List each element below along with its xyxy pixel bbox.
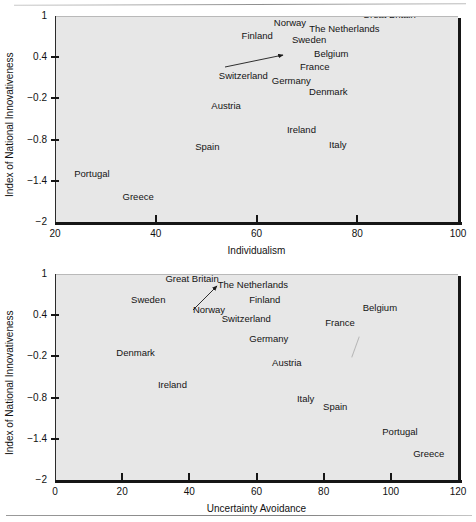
- data-point-label: Spain: [195, 142, 219, 152]
- y-tick-mark-bottom: [51, 438, 59, 440]
- plot-left-spine-top: [55, 16, 56, 222]
- x-tick-label-top: 40: [136, 229, 176, 239]
- x-tick-label-bottom: 120: [438, 487, 476, 497]
- x-axis-line-top: [55, 222, 462, 225]
- x-tick-mark-bottom: [390, 473, 392, 480]
- x-tick-mark-bottom: [121, 473, 123, 480]
- plot-top-spine-bottom: [55, 274, 458, 275]
- data-point-label: Portugal: [382, 427, 417, 437]
- y-tick-mark-bottom: [51, 355, 59, 357]
- y-tick-label-bottom: 1: [13, 269, 47, 279]
- x-axis-title-top: Individualism: [55, 246, 458, 256]
- data-point-label: France: [325, 318, 355, 328]
- data-point-label: Ireland: [287, 125, 316, 135]
- data-point-label: Spain: [323, 402, 347, 412]
- x-tick-mark-top: [356, 215, 358, 222]
- y-tick-mark-top: [51, 180, 59, 182]
- y-tick-label-top: −0.2: [13, 93, 47, 103]
- y-tick-label-top: 1: [13, 11, 47, 21]
- data-point-label: Greece: [123, 192, 154, 202]
- x-tick-label-bottom: 0: [35, 487, 75, 497]
- x-tick-label-bottom: 40: [169, 487, 209, 497]
- data-point-label: Sweden: [131, 295, 165, 305]
- y-tick-label-bottom: −0.8: [13, 393, 47, 403]
- x-tick-label-top: 100: [438, 229, 476, 239]
- data-point-label: Norway: [274, 18, 306, 28]
- x-axis-title-bottom: Uncertainty Avoidance: [55, 504, 458, 514]
- bottom-divider-rule: [6, 515, 472, 516]
- data-point-label: Denmark: [116, 348, 155, 358]
- x-tick-mark-bottom: [256, 473, 258, 480]
- y-tick-label-bottom: 0.4: [13, 310, 47, 320]
- y-tick-label-bottom: −2: [13, 475, 47, 485]
- y-tick-mark-top: [51, 97, 59, 99]
- data-point-label: Italy: [329, 140, 346, 150]
- y-tick-mark-bottom: [51, 397, 59, 399]
- data-point-label: Greece: [413, 449, 444, 459]
- y-tick-mark-bottom: [51, 314, 59, 316]
- plot-left-spine-bottom: [55, 274, 56, 480]
- plot-area-top: Great BritainNorwayThe NetherlandsFinlan…: [55, 16, 458, 222]
- y-tick-label-top: 0.4: [13, 52, 47, 62]
- annotation-arrow-top: [225, 45, 345, 105]
- y-tick-label-bottom: −0.2: [13, 351, 47, 361]
- plot-right-spine-top: [458, 18, 461, 225]
- y-tick-label-top: −2: [13, 217, 47, 227]
- x-axis-line-bottom: [55, 480, 462, 483]
- scatter-chart-individualism: Great BritainNorwayThe NetherlandsFinlan…: [0, 6, 476, 254]
- x-tick-mark-bottom: [188, 473, 190, 480]
- y-tick-mark-top: [51, 56, 59, 58]
- data-point-label: Finland: [242, 31, 273, 41]
- x-tick-label-bottom: 20: [102, 487, 142, 497]
- x-tick-label-bottom: 100: [371, 487, 411, 497]
- plot-area-bottom: Great BritainThe NetherlandsNorwayFinlan…: [55, 274, 458, 480]
- annotation-arrow-bottom: [183, 280, 303, 340]
- x-tick-mark-top: [256, 215, 258, 222]
- scan-artifact-mark: [351, 336, 359, 357]
- x-tick-label-top: 60: [237, 229, 277, 239]
- plot-right-spine-bottom: [458, 276, 461, 483]
- x-tick-label-top: 20: [35, 229, 75, 239]
- x-tick-label-top: 80: [337, 229, 377, 239]
- data-point-label: Sweden: [292, 35, 326, 45]
- data-point-label: Ireland: [158, 380, 187, 390]
- data-point-label: Belgium: [363, 303, 397, 313]
- scatter-chart-uncertainty-avoidance: Great BritainThe NetherlandsNorwayFinlan…: [0, 264, 476, 514]
- figure-page: Great BritainNorwayThe NetherlandsFinlan…: [0, 0, 476, 522]
- plot-top-spine-top: [55, 16, 458, 17]
- y-tick-mark-top: [51, 139, 59, 141]
- x-tick-mark-bottom: [323, 473, 325, 480]
- data-point-label: Portugal: [74, 169, 109, 179]
- data-point-label: The Netherlands: [309, 24, 379, 34]
- y-tick-label-top: −1.4: [13, 176, 47, 186]
- y-tick-label-bottom: −1.4: [13, 434, 47, 444]
- x-tick-mark-top: [155, 215, 157, 222]
- y-tick-label-top: −0.8: [13, 135, 47, 145]
- data-point-label: Austria: [272, 358, 302, 368]
- x-tick-label-bottom: 60: [237, 487, 277, 497]
- x-tick-label-bottom: 80: [304, 487, 344, 497]
- data-point-label: Italy: [297, 394, 314, 404]
